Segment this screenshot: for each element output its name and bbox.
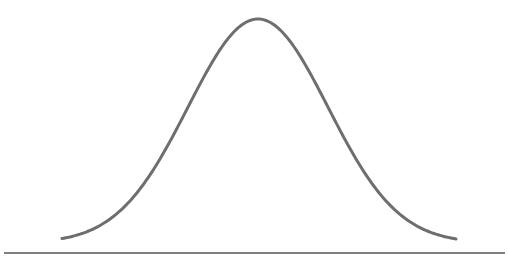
normal-distribution-curve [62, 19, 456, 239]
bell-curve-chart [0, 0, 508, 262]
